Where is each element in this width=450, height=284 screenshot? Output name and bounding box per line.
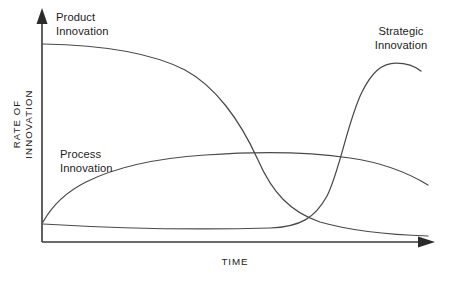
- x-axis-label: TIME: [192, 256, 278, 267]
- y-axis-arrowhead-icon: [37, 8, 48, 24]
- curve-product-innovation: [43, 44, 428, 236]
- curve-strategic-innovation: [43, 63, 421, 229]
- y-axis-label: RATE OF INNOVATION: [11, 76, 35, 172]
- x-axis-arrowhead-icon: [418, 237, 435, 248]
- label-process-innovation: Process Innovation: [60, 147, 113, 175]
- innovation-curve-chart: Product Innovation Process Innovation St…: [0, 0, 450, 284]
- label-strategic-innovation: Strategic Innovation: [360, 24, 442, 52]
- label-product-innovation: Product Innovation: [56, 10, 109, 38]
